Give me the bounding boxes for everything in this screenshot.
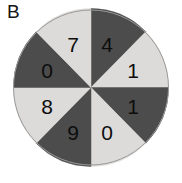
spinner-figure-panel: B 41109807 <box>0 0 182 183</box>
sector-label-5: 8 <box>41 95 53 118</box>
spinner-svg: 41109807 <box>13 8 169 167</box>
sector-label-7: 7 <box>67 33 79 56</box>
sector-label-0: 4 <box>101 33 113 56</box>
sector-label-3: 0 <box>101 121 113 144</box>
sector-label-4: 9 <box>67 121 79 144</box>
spinner-wheel: 41109807 <box>13 8 169 167</box>
sector-label-6: 0 <box>41 59 53 82</box>
sector-label-1: 1 <box>127 59 139 82</box>
sector-label-2: 1 <box>127 95 139 118</box>
